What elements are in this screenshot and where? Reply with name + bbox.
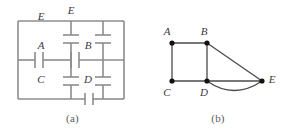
circuit-label-top: E: [37, 10, 45, 22]
circuit-label-lower-left: C: [37, 73, 45, 85]
graph-node-B: [204, 40, 209, 45]
circuit-label-upper-right: B: [85, 39, 92, 51]
graph-node-D: [204, 78, 209, 83]
capacitor-bottom-icon: [85, 93, 93, 105]
panel-b-graph: A B C D E (b): [145, 0, 291, 135]
caption-b: (b): [145, 112, 291, 124]
graph-node-label-B: B: [201, 25, 208, 37]
graph-node-label-A: A: [163, 25, 171, 37]
graph-node-E: [259, 78, 264, 83]
figure-container: E A B C D E (a): [0, 0, 291, 135]
capacitor-right-upper-icon: [95, 35, 111, 43]
graph-node-C: [169, 78, 174, 83]
capacitor-middle-left-icon: [35, 52, 43, 68]
capacitor-right-lower-icon: [95, 77, 111, 85]
graph-edge-D-E-curved: [207, 81, 262, 91]
graph-node-label-D: D: [199, 86, 208, 98]
capacitor-circuit-svg: E A B C D: [0, 0, 145, 112]
capacitor-center-upper-icon: [63, 35, 79, 43]
graph-svg: A B C D E: [145, 0, 291, 112]
circuit-label-lower-right: D: [83, 73, 92, 85]
circuit-label-upper-left: A: [37, 39, 45, 51]
capacitor-middle-right-icon: [71, 52, 79, 68]
graph-edge-B-E: [207, 43, 262, 81]
caption-a: (a): [0, 112, 145, 124]
panel-a-capacitor-circuit: E A B C D E (a): [0, 0, 145, 135]
graph-node-label-E: E: [268, 73, 276, 85]
capacitor-center-lower-icon: [63, 77, 79, 85]
graph-node-A: [169, 40, 174, 45]
graph-node-label-C: C: [163, 86, 171, 98]
